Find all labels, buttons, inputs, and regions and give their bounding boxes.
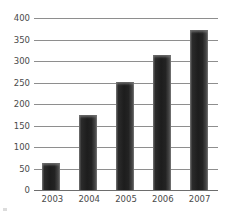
bar-2006 — [153, 55, 171, 190]
y-axis-label-350: 350 — [0, 35, 30, 45]
chart-title — [0, 0, 231, 4]
bar-slot — [153, 18, 171, 190]
y-axis-label-0: 0 — [0, 185, 30, 195]
bar-highlight — [153, 55, 171, 58]
bar-2007 — [190, 30, 208, 190]
bar-highlight — [116, 82, 134, 85]
bar-highlight — [79, 115, 97, 118]
bar-2004 — [79, 115, 97, 190]
bar-highlight — [190, 30, 208, 33]
y-axis-label-100: 100 — [0, 142, 30, 152]
y-axis-label-400: 400 — [0, 13, 30, 23]
y-axis-label-50: 50 — [0, 164, 30, 174]
y-axis-label-200: 200 — [0, 99, 30, 109]
x-axis-label-2003: 2003 — [34, 194, 71, 204]
bar-chart: 050100150200250300350400 200320042005200… — [0, 0, 231, 216]
scan-artifact — [3, 208, 7, 211]
bar-slot — [42, 18, 60, 190]
bar-2005 — [116, 82, 134, 190]
x-axis-label-2004: 2004 — [71, 194, 108, 204]
bar-2003 — [42, 163, 60, 190]
bar-slot — [79, 18, 97, 190]
y-axis-label-150: 150 — [0, 121, 30, 131]
bar-highlight — [42, 163, 60, 166]
x-axis-label-2006: 2006 — [144, 194, 181, 204]
x-axis-label-2007: 2007 — [181, 194, 218, 204]
x-axis-tick-labels: 20032004200520062007 — [34, 194, 218, 210]
x-axis-label-2005: 2005 — [108, 194, 145, 204]
bar-series — [34, 18, 218, 190]
bar-slot — [190, 18, 208, 190]
y-axis-tick-labels: 050100150200250300350400 — [0, 18, 30, 190]
y-axis-label-250: 250 — [0, 78, 30, 88]
gridline-0 — [34, 190, 218, 191]
bar-slot — [116, 18, 134, 190]
y-axis-label-300: 300 — [0, 56, 30, 66]
